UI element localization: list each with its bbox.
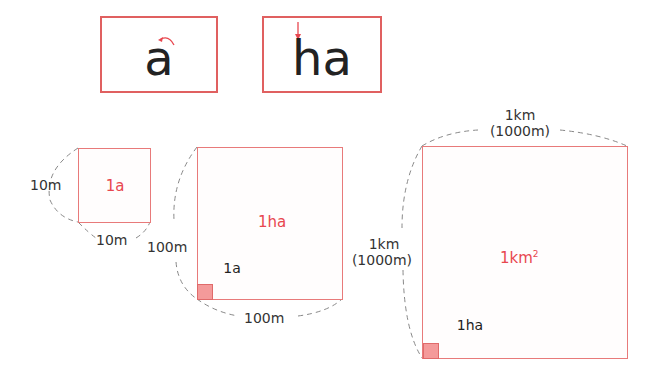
hectare-inner-unit-label: 1a (220, 260, 244, 276)
km2-side-top-label-1: 1km (500, 107, 540, 123)
are-side-left-label: 10m (30, 177, 61, 193)
are-side-bottom-label: 10m (96, 232, 127, 248)
km2-side-left-label-1: 1km (364, 236, 404, 252)
km2-area-label: 1km2 (500, 246, 539, 266)
are-unit-marker (197, 284, 213, 300)
hectare-area-label: 1ha (252, 214, 292, 230)
hectare-side-left-label: 100m (147, 239, 187, 255)
km2-area-exponent: 2 (533, 249, 539, 259)
km2-inner-unit-label: 1ha (452, 317, 488, 333)
km2-side-left-label-2: (1000m) (344, 252, 420, 268)
hectare-side-bottom-label: 100m (244, 310, 284, 326)
hectare-unit-marker (423, 343, 439, 359)
km2-area-base: 1km (500, 249, 533, 267)
km2-side-top-label-2: (1000m) (482, 123, 558, 139)
are-area-label: 1a (100, 178, 130, 194)
